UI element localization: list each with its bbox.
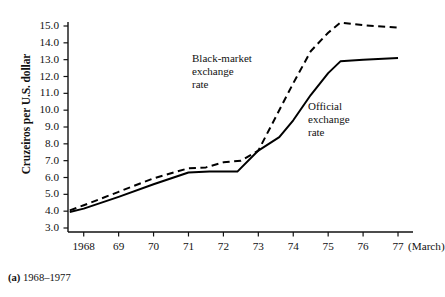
annotation-black-market-rate: Black-marketexchangerate bbox=[192, 52, 252, 92]
y-axis-tick-label: 3.0 bbox=[25, 222, 59, 233]
y-axis-tick-label: 13.0 bbox=[25, 54, 59, 65]
caption-text: 1968–1977 bbox=[23, 272, 71, 283]
y-axis-tick-label: 6.0 bbox=[25, 172, 59, 183]
annotation-black-market-line-3: rate bbox=[192, 78, 252, 91]
y-axis-tick-label: 7.0 bbox=[25, 155, 59, 166]
y-axis-tick-label: 12.0 bbox=[25, 71, 59, 82]
annotation-official-rate: Officialexchangerate bbox=[308, 100, 350, 140]
y-axis-tick-label: 5.0 bbox=[25, 188, 59, 199]
caption-marker: (a) bbox=[8, 272, 20, 283]
y-axis-tick-label: 9.0 bbox=[25, 121, 59, 132]
annotation-black-market-line-1: Black-market bbox=[192, 52, 252, 65]
y-axis-tick-label: 15.0 bbox=[25, 20, 59, 31]
y-axis-tick-label: 11.0 bbox=[25, 87, 59, 98]
y-axis-tick-label: 10.0 bbox=[25, 104, 59, 115]
annotation-official-line-2: exchange bbox=[308, 113, 350, 126]
annotation-official-line-1: Official bbox=[308, 100, 350, 113]
annotation-black-market-line-2: exchange bbox=[192, 65, 252, 78]
y-axis-tick-label: 8.0 bbox=[25, 138, 59, 149]
y-axis-tick-label: 4.0 bbox=[25, 205, 59, 216]
annotation-official-line-3: rate bbox=[308, 126, 350, 139]
figure-caption: (a) 1968–1977 bbox=[8, 272, 71, 283]
y-axis-tick-label: 14.0 bbox=[25, 37, 59, 48]
x-axis-unit-note: (March) bbox=[408, 240, 445, 252]
